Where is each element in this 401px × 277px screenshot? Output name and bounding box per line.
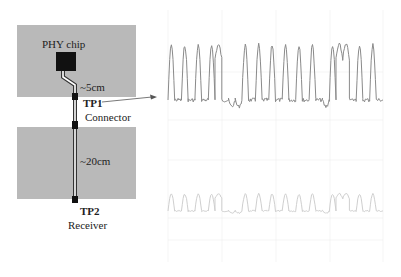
tp1-label: TP1 (83, 97, 103, 109)
tp2-connector-block (72, 196, 78, 203)
trace-length-20cm: ~20cm (80, 155, 111, 167)
tp2-label: TP2 (80, 205, 100, 217)
signal-integrity-diagram: PHY chip ~5cm ~20cm TP1 Connector TP2 Re… (0, 0, 401, 277)
trace-length-5cm: ~5cm (80, 81, 105, 93)
connector-label: Connector (85, 111, 131, 123)
receiver-label: Receiver (68, 219, 107, 231)
connector-block-mid (72, 121, 78, 129)
tp2-waveform (168, 193, 383, 213)
phy-chip-label: PHY chip (42, 38, 86, 50)
tp1-waveform (168, 43, 383, 108)
scope-grid (168, 10, 383, 262)
tp1-connector-block (72, 93, 78, 100)
phy-chip (56, 52, 76, 71)
